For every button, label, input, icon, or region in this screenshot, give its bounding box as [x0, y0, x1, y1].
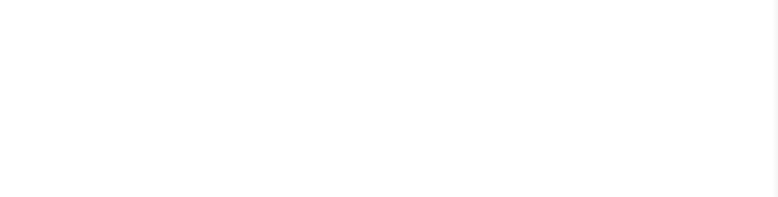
music-sheet: [0, 0, 778, 197]
page-edge: [772, 0, 778, 197]
